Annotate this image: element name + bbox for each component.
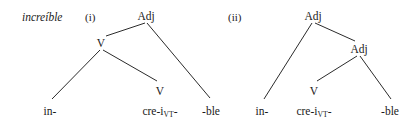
tree-2-edge-root-to-adj xyxy=(315,23,355,41)
tree-1-edge-root-to-v xyxy=(106,23,145,36)
tree-2-node-internal-adj: Adj xyxy=(350,44,367,56)
tree-2-leaf-cre-i: cre-iVT- xyxy=(296,106,331,118)
tree-1-node-root-adj: Adj xyxy=(137,11,154,23)
edges-group xyxy=(52,23,391,99)
tree-2-node-preterminal-v: V xyxy=(310,86,318,98)
tree-1-node-internal-v: V xyxy=(97,38,105,50)
tree-diagram-figure: (i)AdjVVin-cre-iVT--ble(ii)AdjAdjVin-cre… xyxy=(0,0,416,124)
tree-2-edge-adj-to-ble xyxy=(360,56,391,99)
subscript: VT xyxy=(317,110,327,119)
tree-1-node-preterminal-v: V xyxy=(156,86,164,98)
tree-2-leaf-in: in- xyxy=(256,106,269,118)
tree-2-leaf-ble: -ble xyxy=(381,106,399,118)
tree-1-enumerator: (i) xyxy=(85,12,95,23)
tree-1-leaf-cre-i: cre-iVT- xyxy=(142,106,177,118)
tree-1-leaf-ble: -ble xyxy=(202,106,220,118)
tree-2-edge-adj-to-v xyxy=(317,56,357,81)
tree-1-edge-v-to-prev xyxy=(103,50,157,81)
tree-1-leaf-in: in- xyxy=(44,106,57,118)
tree-1-edge-v-to-in xyxy=(52,50,100,99)
tree-2-edge-root-to-in xyxy=(264,23,312,99)
word-label: increíble xyxy=(22,12,62,24)
subscript: VT xyxy=(163,110,173,119)
tree-2-enumerator: (ii) xyxy=(228,12,241,23)
tree-2-node-root-adj: Adj xyxy=(304,11,321,23)
